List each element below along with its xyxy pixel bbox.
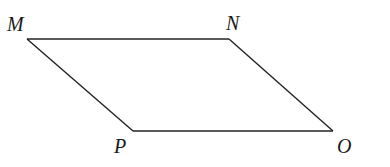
edge-p-m bbox=[27, 39, 133, 131]
parallelogram-diagram: M N O P bbox=[0, 0, 390, 167]
vertex-label-n: N bbox=[225, 12, 241, 34]
vertex-label-m: M bbox=[6, 13, 25, 35]
edge-n-o bbox=[229, 39, 333, 131]
vertex-label-o: O bbox=[337, 135, 351, 157]
vertex-label-p: P bbox=[113, 135, 126, 157]
